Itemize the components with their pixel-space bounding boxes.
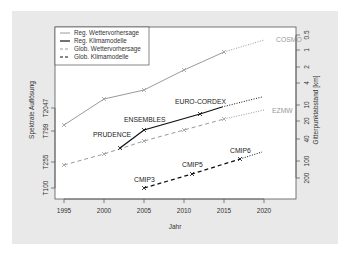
legend: Reg. Wettervorhersage Reg. Klimamodelle … [55,27,149,65]
legend-label-reg-nwp: Reg. Wettervorhersage [74,29,139,37]
x-tick-2020: 2020 [257,207,272,214]
y-right-tick-40: 40 [303,135,310,143]
x-tick-2010: 2010 [177,207,192,214]
y-right-tick-20: 20 [303,117,310,125]
label-euro-cordex: EURO-CORDEX [175,98,226,105]
y-right-tick-2: 2 [303,65,310,69]
x-tick-2015: 2015 [217,207,232,214]
legend-label-glob-climate: Glob. Klimamodelle [74,53,129,60]
x-tick-2005: 2005 [137,207,152,214]
y-right-tick-200: 200 [303,172,310,183]
label-cmip6: CMIP6 [230,147,251,154]
y-right-tick-10: 10 [303,101,310,109]
x-axis-title: Jahr [169,223,182,230]
legend-label-glob-nwp: Glob. Wettervorhersage [74,45,141,53]
y-left-tick-t799: T799 [42,123,49,138]
label-cosmo: COSMO [276,36,302,43]
chart: Reg. Wettervorhersage Reg. Klimamodelle … [0,0,343,253]
legend-label-reg-climate: Reg. Klimamodelle [74,37,127,45]
y-axis-right [296,35,300,178]
x-axis [64,199,264,203]
x-tick-1995: 1995 [57,207,72,214]
y-right-tick-4: 4 [303,81,310,85]
label-cmip5: CMIP5 [182,161,203,168]
label-ezmw: EZMW [272,107,293,114]
x-tick-2000: 2000 [97,207,112,214]
y-axis-left [51,108,55,188]
y-right-tick-100: 100 [303,155,310,166]
y-left-tick-t100: T100 [42,180,49,195]
y-right-tick-0-5: 0.5 [303,30,310,39]
label-cmip3: CMIP3 [134,176,155,183]
y-left-axis-title: Spektrale Auflösung [28,81,36,139]
label-prudence: PRUDENCE [93,131,132,138]
y-right-axis-title: Gitterpunktabstand [km] [312,75,320,144]
y-right-tick-1: 1 [303,48,310,52]
y-left-tick-t2047: T2047 [42,98,49,117]
y-left-tick-t255: T255 [42,154,49,169]
label-ensembles: ENSEMBLES [124,116,166,123]
